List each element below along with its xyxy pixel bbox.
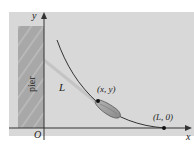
origin-label: O xyxy=(34,129,41,140)
rope-length-label: L xyxy=(58,81,65,93)
x-axis-label: x xyxy=(185,131,191,142)
y-axis-label: y xyxy=(31,10,37,21)
tractrix-diagram: y x O L (x, y) (L, 0) pier xyxy=(0,0,194,149)
boat-point-marker xyxy=(96,99,100,103)
end-point-marker xyxy=(162,126,166,130)
end-point-label: (L, 0) xyxy=(153,112,173,122)
boat-point-label: (x, y) xyxy=(97,84,115,94)
pier-label: pier xyxy=(26,76,37,92)
